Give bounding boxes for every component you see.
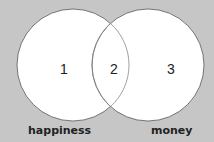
region-label-2: 2 bbox=[110, 61, 118, 77]
circle-money bbox=[92, 9, 204, 121]
label-happiness: happiness bbox=[28, 124, 92, 137]
label-money: money bbox=[151, 124, 192, 137]
venn-diagram: 1 2 3 happiness money bbox=[0, 0, 214, 142]
region-label-3: 3 bbox=[167, 61, 175, 77]
region-label-1: 1 bbox=[60, 61, 68, 77]
